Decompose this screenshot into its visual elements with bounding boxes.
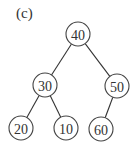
- node-value: 20: [14, 122, 28, 137]
- node-value: 50: [110, 80, 124, 95]
- node-value: 40: [71, 28, 85, 43]
- tree-edge: [50, 96, 60, 117]
- tree-node: 10: [54, 116, 78, 140]
- tree-graph: 403050201060: [0, 0, 137, 157]
- tree-node: 50: [105, 74, 129, 98]
- tree-node: 30: [33, 73, 57, 97]
- tree-diagram: (c) 403050201060: [0, 0, 137, 157]
- tree-edge: [27, 95, 39, 117]
- tree-edge: [85, 44, 110, 77]
- tree-edge: [105, 97, 113, 118]
- tree-node: 40: [66, 22, 90, 46]
- node-value: 60: [94, 123, 108, 138]
- node-value: 10: [59, 122, 73, 137]
- tree-edge: [52, 44, 72, 75]
- tree-node: 60: [89, 117, 113, 141]
- tree-node: 20: [9, 116, 33, 140]
- node-value: 30: [38, 79, 52, 94]
